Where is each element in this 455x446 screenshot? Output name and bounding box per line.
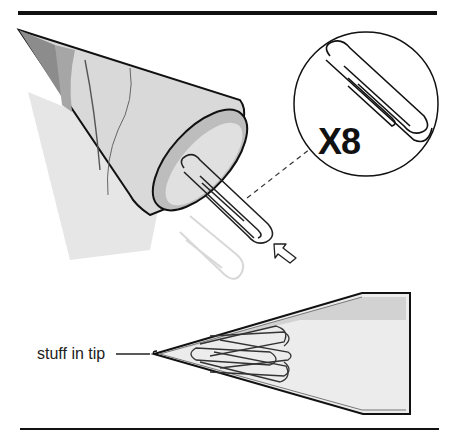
tip-annotation: stuff in tip: [37, 344, 105, 364]
illustration: [0, 0, 455, 446]
ghost-paperclip-icon: [180, 216, 243, 279]
callout-circle: [294, 32, 438, 176]
cone-cross-section: [153, 293, 410, 414]
bottom-divider: [20, 428, 439, 430]
quantity-label: X8: [318, 124, 360, 160]
arrow-up-left-icon: [274, 244, 296, 263]
